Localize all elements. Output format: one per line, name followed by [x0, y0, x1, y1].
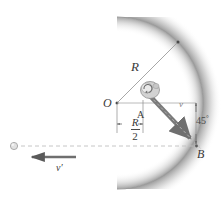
- velocity-in-label: v: [179, 100, 183, 109]
- velocity-out-label: v′: [56, 163, 63, 173]
- radius-label: R: [131, 60, 139, 73]
- point-b-label: B: [197, 148, 204, 160]
- fraction-numerator: R: [126, 117, 144, 129]
- center-point-label: O: [103, 97, 112, 109]
- fraction-denominator: 2: [126, 131, 144, 143]
- ball-icon: [141, 82, 160, 99]
- distance-fraction-label: R 2: [126, 117, 144, 142]
- angle-label: 45°: [196, 115, 209, 126]
- angle-value: 45: [196, 115, 206, 126]
- degree-symbol: °: [206, 114, 209, 122]
- small-ball-icon: [10, 142, 17, 149]
- physics-diagram-figure: R O A B v v′ 45° R 2: [0, 0, 223, 211]
